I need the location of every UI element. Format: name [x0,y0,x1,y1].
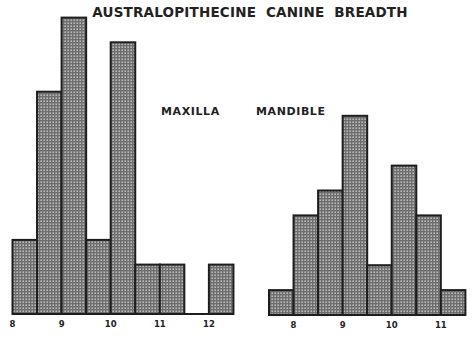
maxilla-bar [13,240,38,314]
maxilla-tick-label: 8 [10,319,16,329]
mandible-tick-label: 11 [435,320,447,330]
mandible-tick-label: 10 [386,320,398,330]
mandible-bar [318,191,343,316]
maxilla-bar [160,265,185,314]
maxilla-bar [209,265,234,314]
maxilla-bar [86,240,111,314]
maxilla-tick-label: 10 [105,319,117,329]
mandible-bar [392,166,417,315]
mandible-bar [269,290,294,315]
maxilla-bar [135,265,160,314]
mandible-bar [416,215,441,315]
mandible-tick-label: 8 [291,320,297,330]
mandible-bar [367,265,392,315]
maxilla-tick-label: 11 [154,319,166,329]
mandible-histogram: 891011 [269,116,465,330]
mandible-bar [441,290,466,315]
maxilla-tick-label: 9 [59,319,65,329]
maxilla-histogram: 89101112 [10,18,234,329]
maxilla-bar [62,18,87,314]
maxilla-tick-label: 12 [203,319,215,329]
mandible-bar [343,116,368,315]
maxilla-bar [111,42,136,314]
histogram-canvas: 89101112 891011 [0,0,475,340]
mandible-tick-label: 9 [340,320,346,330]
maxilla-bar [37,92,62,314]
mandible-bar [294,215,319,315]
